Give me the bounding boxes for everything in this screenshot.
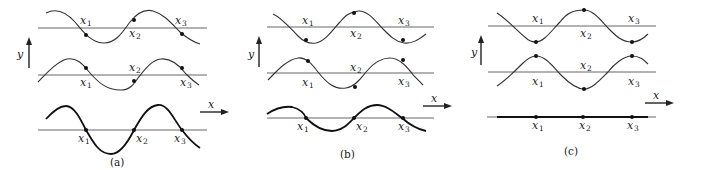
x-axis-arrow-c: x (645, 89, 674, 106)
svg-text:x: x (297, 120, 304, 133)
svg-text:x: x (628, 75, 635, 88)
svg-text:1: 1 (87, 81, 92, 90)
svg-text:1: 1 (539, 17, 544, 26)
x-axis-label-b: x (431, 92, 438, 105)
caption-b: (b) (340, 148, 355, 160)
svg-text:1: 1 (539, 124, 544, 133)
y-axis-label-a: y (16, 48, 24, 61)
svg-text:1: 1 (539, 80, 544, 89)
svg-text:1: 1 (309, 81, 314, 90)
x-axis-label-a: x (208, 98, 215, 111)
x-axis-arrow-b: x (423, 92, 452, 109)
panel-b-row-top: x 1 x 2 x 3 (267, 11, 434, 43)
svg-text:3: 3 (187, 81, 192, 90)
svg-text:1: 1 (309, 19, 314, 28)
panel-a-row-middle: x 1 x 2 x 3 (38, 59, 207, 90)
svg-text:2: 2 (143, 137, 148, 146)
svg-text:3: 3 (405, 19, 410, 28)
svg-text:2: 2 (357, 66, 362, 75)
svg-text:x: x (580, 59, 587, 72)
svg-text:x: x (579, 119, 586, 132)
svg-text:x: x (302, 14, 309, 27)
svg-text:3: 3 (182, 19, 187, 28)
wave-diagram: y x 1 x 2 x 3 x 1 x 2 x 3 (0, 0, 713, 170)
y-axis-arrow-b: y (247, 36, 262, 67)
panel-b-row-bottom: x 1 x 2 x 3 (267, 105, 434, 134)
svg-text:x: x (350, 61, 357, 74)
svg-text:x: x (80, 14, 87, 27)
svg-text:3: 3 (405, 80, 410, 89)
svg-text:x: x (532, 75, 539, 88)
svg-text:x: x (129, 61, 136, 74)
svg-text:2: 2 (587, 64, 592, 73)
svg-text:x: x (398, 120, 405, 133)
svg-text:x: x (78, 132, 85, 145)
svg-text:2: 2 (586, 124, 591, 133)
y-axis-label-b: y (247, 48, 255, 61)
svg-text:x: x (136, 132, 143, 145)
svg-text:x: x (580, 27, 587, 40)
y-axis-label-c: y (470, 46, 478, 59)
y-axis-arrow-a: y (16, 37, 32, 68)
panel-b: y x 1 x 2 x 3 x 1 x 2 x 3 (247, 11, 452, 160)
caption-a: (a) (110, 156, 124, 168)
svg-text:x: x (356, 120, 363, 133)
svg-text:3: 3 (181, 137, 186, 146)
svg-text:1: 1 (85, 137, 90, 146)
panel-a-row-bottom: x 1 x 2 x 3 (38, 105, 207, 154)
svg-text:x: x (175, 14, 182, 27)
svg-text:x: x (627, 119, 634, 132)
svg-text:x: x (180, 76, 187, 89)
panel-c-row-top: x 1 x 2 x 3 (488, 8, 656, 44)
x-axis-arrow-a: x (200, 98, 229, 115)
x-axis-label-c: x (653, 89, 660, 102)
y-axis-arrow-c: y (470, 35, 484, 65)
svg-text:x: x (532, 12, 539, 25)
svg-text:3: 3 (634, 124, 639, 133)
panel-a: y x 1 x 2 x 3 x 1 x 2 x 3 (16, 10, 229, 168)
panel-c: y x 1 x 2 x 3 x 1 x 2 x 3 (470, 8, 674, 157)
svg-text:x: x (532, 119, 539, 132)
svg-text:3: 3 (635, 80, 640, 89)
svg-text:x: x (398, 14, 405, 27)
svg-text:2: 2 (136, 32, 141, 41)
svg-text:3: 3 (405, 125, 410, 134)
svg-text:1: 1 (304, 125, 309, 134)
panel-c-row-middle: x 1 x 2 x 3 (488, 54, 656, 91)
svg-text:1: 1 (87, 19, 92, 28)
panel-c-row-bottom: x 1 x 2 x 3 (487, 115, 656, 133)
svg-text:x: x (302, 76, 309, 89)
svg-text:3: 3 (635, 17, 640, 26)
panel-b-row-middle: x 1 x 2 x 3 (267, 58, 434, 90)
svg-text:2: 2 (587, 32, 592, 41)
svg-text:2: 2 (363, 125, 368, 134)
svg-text:x: x (398, 75, 405, 88)
svg-text:2: 2 (357, 32, 362, 41)
svg-text:x: x (80, 76, 87, 89)
svg-text:x: x (350, 27, 357, 40)
svg-text:2: 2 (136, 66, 141, 75)
svg-text:x: x (129, 27, 136, 40)
svg-text:x: x (628, 12, 635, 25)
panel-a-row-top: x 1 x 2 x 3 (38, 10, 207, 44)
svg-text:x: x (174, 132, 181, 145)
caption-c: (c) (564, 145, 578, 157)
